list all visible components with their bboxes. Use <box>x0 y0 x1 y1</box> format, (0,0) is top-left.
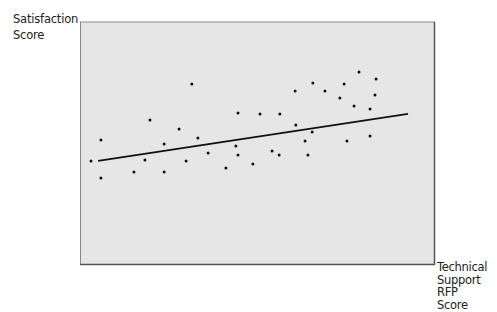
data-point <box>345 140 348 143</box>
data-point <box>338 96 341 99</box>
data-point <box>132 171 135 174</box>
data-point <box>374 94 377 97</box>
data-point <box>304 140 307 143</box>
data-point <box>178 127 181 130</box>
data-point <box>185 159 188 162</box>
x-axis-label: Technical Support RFP Score <box>437 261 497 311</box>
data-point <box>99 177 102 180</box>
data-point <box>236 111 239 114</box>
data-point <box>143 158 146 161</box>
data-point <box>358 71 361 74</box>
x-axis-label-line-1: Technical <box>437 261 497 274</box>
data-point <box>375 78 378 81</box>
data-point <box>294 89 297 92</box>
data-point <box>278 112 281 115</box>
data-point <box>190 82 193 85</box>
data-point <box>207 151 210 154</box>
data-point <box>353 104 356 107</box>
data-point <box>224 166 227 169</box>
plot-area <box>80 22 435 264</box>
data-point <box>294 124 297 127</box>
data-point <box>311 131 314 134</box>
data-point <box>90 159 93 162</box>
x-axis-label-line-2: Support RFP <box>437 274 497 299</box>
data-point <box>311 81 314 84</box>
data-point <box>323 89 326 92</box>
data-point <box>343 82 346 85</box>
data-point <box>258 112 261 115</box>
data-point <box>271 149 274 152</box>
data-point <box>148 119 151 122</box>
data-point <box>369 134 372 137</box>
data-point <box>278 154 281 157</box>
data-point <box>369 108 372 111</box>
data-point <box>99 139 102 142</box>
data-point <box>196 136 199 139</box>
x-axis-label-line-3: Score <box>437 299 497 312</box>
data-point <box>306 154 309 157</box>
data-point <box>234 144 237 147</box>
data-point <box>163 142 166 145</box>
data-point <box>236 154 239 157</box>
data-point <box>251 163 254 166</box>
data-point <box>163 171 166 174</box>
